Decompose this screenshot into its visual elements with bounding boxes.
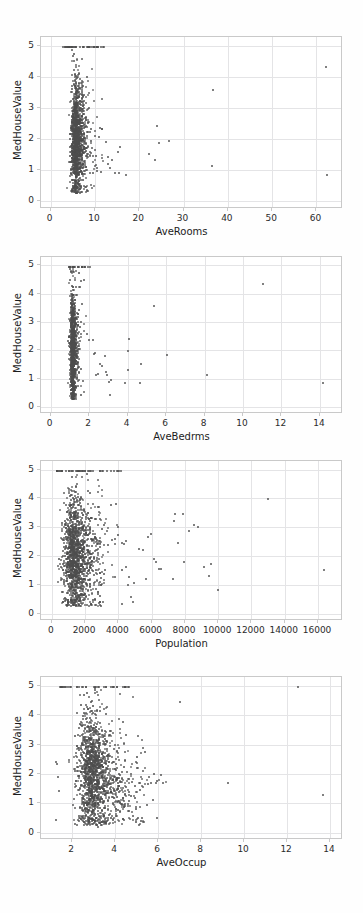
data-point [121,771,123,773]
data-point [123,806,125,808]
data-point [94,581,96,583]
data-point [99,518,101,520]
data-point [77,313,79,315]
data-point [203,566,205,568]
data-point [81,87,83,89]
data-point [74,770,76,772]
x-tick-mark [227,208,228,211]
data-point [127,686,129,688]
data-point [106,748,108,750]
gridline-vertical [316,37,317,207]
y-tick-label: 1 [14,164,34,174]
data-point [106,470,108,472]
gridline-vertical [228,37,229,207]
data-point [73,60,75,62]
data-point [90,725,92,727]
data-point [78,372,80,374]
data-point [66,558,68,560]
data-point [79,516,81,518]
data-point [101,729,103,731]
x-tick-mark [271,208,272,211]
y-tick-mark [37,497,40,498]
data-point [93,185,95,187]
data-point [56,763,58,765]
y-tick-label: 5 [14,680,34,690]
data-point [95,752,97,754]
data-point [111,756,113,758]
data-point [107,156,109,158]
x-tick-label: 16000 [303,625,332,635]
data-point [94,533,96,535]
data-point [61,686,63,688]
data-point [127,750,129,752]
data-point [95,155,97,157]
data-point [87,512,89,514]
data-point [94,352,96,354]
data-point [89,572,91,574]
data-point [93,745,95,747]
data-point [74,735,76,737]
data-point [93,100,95,102]
gridline-horizontal [41,833,341,834]
data-point [114,821,116,823]
data-point [69,541,71,543]
data-point [73,756,75,758]
data-point [99,470,101,472]
x-tick-mark [319,413,320,416]
data-point [103,708,105,710]
data-point [177,542,179,544]
data-point [99,744,101,746]
data-point [75,752,77,754]
data-point [102,562,104,564]
data-point [325,66,327,68]
data-point [72,286,74,288]
data-point [91,729,93,731]
data-point [92,823,94,825]
y-tick-mark [37,832,40,833]
data-point [87,525,89,527]
data-point [105,790,107,792]
plot-wrap-population-vs-medhousevalue: 0200040006000800010000120001400016000012… [0,452,363,664]
data-point [75,525,77,527]
data-point [80,771,82,773]
data-point [76,92,78,94]
data-point [100,726,102,728]
data-point [103,46,105,48]
data-point [87,146,89,148]
data-point [66,567,68,569]
data-point [107,809,109,811]
data-point [158,779,160,781]
data-point [99,722,101,724]
data-point [66,511,68,513]
data-point [80,530,82,532]
data-point [92,161,94,163]
data-point [84,779,86,781]
data-point [128,338,130,340]
data-point [119,728,121,730]
figure-population-vs-medhousevalue: 0200040006000800010000120001400016000012… [0,452,363,664]
gridline-horizontal [41,350,341,351]
data-point [94,802,96,804]
y-tick-label: 5 [14,464,34,474]
data-point [109,770,111,772]
data-point [168,140,170,142]
data-point [94,159,96,161]
data-point [82,380,84,382]
data-point [98,485,100,487]
data-point [85,96,87,98]
x-tick-label: 12000 [236,625,265,635]
data-point [102,802,104,804]
data-point [174,513,176,515]
data-point [87,559,89,561]
data-point [77,325,79,327]
data-point [79,177,81,179]
data-point [120,764,122,766]
data-point [78,140,80,142]
data-point [115,503,117,505]
data-point [102,601,104,603]
data-point [90,701,92,703]
data-point [79,788,81,790]
data-point [78,521,80,523]
y-axis-label: MedHouseValue [12,498,23,578]
data-point [76,329,78,331]
